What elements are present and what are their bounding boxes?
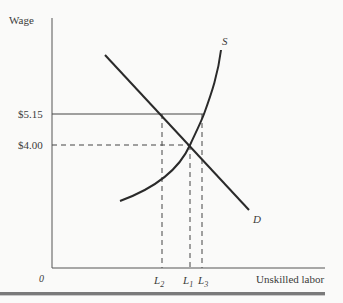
chart-canvas: Wage $5.15 $4.00 0 S D L2 L1 L3 Unskille… xyxy=(0,0,343,303)
l1-tick: L1 xyxy=(182,274,193,289)
l2-tick: L2 xyxy=(153,274,164,289)
l3-tick: L3 xyxy=(197,274,208,289)
page-rule-shadow xyxy=(0,295,325,296)
wage-high-tick: $5.15 xyxy=(18,108,43,120)
minimum-wage-figure: Wage $5.15 $4.00 0 S D L2 L1 L3 Unskille… xyxy=(0,0,343,303)
demand-label: D xyxy=(252,213,261,225)
wage-low-tick: $4.00 xyxy=(18,139,43,151)
x-axis-label: Unskilled labor xyxy=(256,273,324,285)
demand-curve xyxy=(105,55,249,210)
y-axis-label: Wage xyxy=(9,14,34,26)
supply-label: S xyxy=(222,35,228,47)
origin-label: 0 xyxy=(39,273,44,284)
page-rule xyxy=(0,292,325,295)
